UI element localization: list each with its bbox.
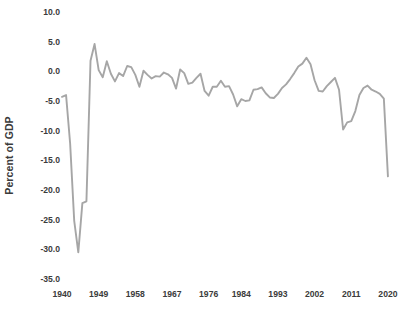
data-series-line — [62, 44, 388, 252]
